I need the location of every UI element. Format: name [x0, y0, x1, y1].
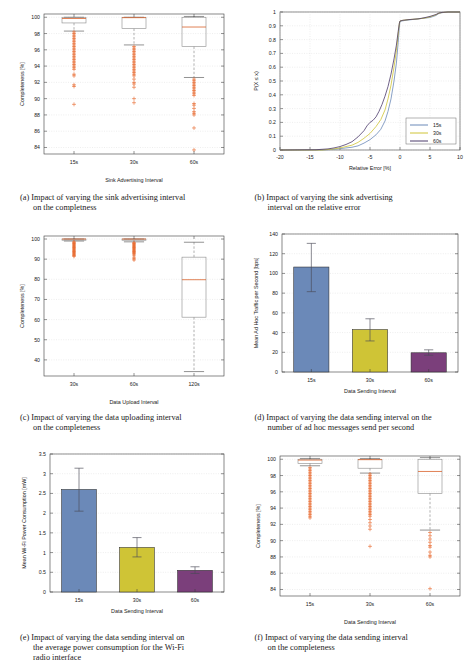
legend-label: 15s — [433, 122, 442, 128]
cdf-plot-b: 00.10.20.30.40.50.60.70.80.91-20-15-10-5… — [234, 0, 469, 192]
subplot-c: 40506070809010030s60s120sData Upload Int… — [0, 220, 234, 440]
plot-f-canvas: 848688909294969810015s30s60sData Sending… — [234, 440, 469, 632]
caption-a: (a) Impact of varying the sink advertisi… — [18, 193, 216, 213]
y-tick-label: 0 — [275, 369, 278, 375]
barchart-e: 00.511.522.533.515s30s60sData Sending In… — [0, 440, 234, 632]
y-tick-label: 92 — [270, 521, 276, 527]
plot-e-canvas: 00.511.522.533.515s30s60sData Sending In… — [0, 440, 234, 632]
x-tick-label: 30s — [130, 159, 139, 165]
caption-a-line1: Impact of varying the sink advertising i… — [31, 193, 185, 202]
y-axis-label: Mean Ad Hoc Traffic per Second [bps] — [253, 257, 259, 348]
y-tick-label: 100 — [267, 456, 276, 462]
y-tick-label: 94 — [270, 505, 276, 511]
y-tick-label: 50 — [34, 337, 40, 343]
y-tick-label: 0.8 — [269, 37, 276, 43]
y-tick-label: 94 — [34, 63, 40, 69]
x-axis-label: Data Sending Interval — [344, 619, 396, 625]
y-tick-label: 40 — [34, 357, 40, 363]
plot-c-canvas: 40506070809010030s60s120sData Upload Int… — [0, 220, 234, 412]
x-tick-label: 60s — [130, 381, 139, 387]
caption-f: (f) Impact of varying the data sending i… — [253, 633, 451, 653]
y-tick-label: 96 — [270, 489, 276, 495]
y-tick-label: 80 — [34, 276, 40, 282]
caption-d-label: (d) — [255, 413, 265, 422]
y-tick-label: 0 — [43, 589, 46, 595]
y-tick-label: 1 — [273, 9, 276, 15]
x-tick-label: 120s — [188, 381, 200, 387]
y-tick-label: 60 — [34, 317, 40, 323]
y-axis-label: P(X ≤ x) — [253, 71, 259, 91]
y-tick-label: 90 — [34, 96, 40, 102]
y-tick-label: 90 — [270, 538, 276, 544]
x-axis-label: Relative Error [%] — [349, 165, 392, 171]
y-tick-label: 100 — [31, 14, 40, 20]
y-axis-label: Completeness [%] — [19, 62, 25, 106]
x-tick-label: 15s — [70, 159, 79, 165]
x-tick-label: 0 — [399, 154, 402, 160]
y-tick-label: 98 — [270, 473, 276, 479]
plot-a-canvas: 848688909294969810015s30s60sSink Adverti… — [0, 0, 234, 192]
plot-b-canvas: 00.10.20.30.40.50.60.70.80.91-20-15-10-5… — [234, 0, 469, 192]
caption-f-label: (f) — [255, 633, 263, 642]
x-tick-label: 60s — [424, 377, 433, 383]
caption-c-line1: Impact of varying the data uploading int… — [31, 413, 181, 422]
caption-b: (b) Impact of varying the sink advertisi… — [253, 193, 451, 213]
caption-f-line1: Impact of varying the data sending inter… — [265, 633, 408, 642]
x-tick-label: 10 — [457, 154, 463, 160]
x-tick-label: -10 — [336, 154, 344, 160]
caption-a-line2: on the completness — [20, 203, 216, 213]
y-tick-label: 40 — [272, 330, 278, 336]
y-tick-label: 0.2 — [269, 119, 276, 125]
x-tick-label: -15 — [306, 154, 314, 160]
y-tick-label: 0.5 — [269, 78, 276, 84]
y-tick-label: 1 — [43, 550, 46, 556]
plot-d-canvas: 02040608010012014015s30s60sData Sending … — [234, 220, 469, 412]
boxplot-c: 40506070809010030s60s120sData Upload Int… — [0, 220, 234, 412]
barchart-d: 02040608010012014015s30s60sData Sending … — [234, 220, 469, 412]
x-tick-label: -5 — [368, 154, 373, 160]
x-tick-label: 30s — [70, 381, 79, 387]
y-tick-label: 1.5 — [39, 530, 46, 536]
y-axis-label: Completeness [%] — [255, 504, 261, 548]
subplot-d: 02040608010012014015s30s60sData Sending … — [234, 220, 469, 440]
subplot-e: 00.511.522.533.515s30s60sData Sending In… — [0, 440, 234, 664]
caption-e: (e) Impact of varying the data sending i… — [18, 633, 216, 663]
x-tick-label: 60s — [191, 597, 200, 603]
caption-d: (d) Impact of varying the data sending i… — [253, 413, 451, 433]
x-tick-label: 30s — [366, 377, 375, 383]
y-tick-label: 0.6 — [269, 64, 276, 70]
y-tick-label: 86 — [270, 570, 276, 576]
x-tick-label: 30s — [366, 601, 375, 607]
y-tick-label: 0.9 — [269, 23, 276, 29]
x-axis-label: Sink Advertising Interval — [105, 177, 163, 183]
x-tick-label: -20 — [276, 154, 284, 160]
y-tick-label: 100 — [31, 236, 40, 242]
subplot-f: 848688909294969810015s30s60sData Sending… — [234, 440, 469, 664]
subplot-grid: 848688909294969810015s30s60sSink Adverti… — [0, 0, 469, 664]
y-tick-label: 80 — [272, 290, 278, 296]
y-tick-label: 84 — [34, 144, 40, 150]
y-tick-label: 140 — [269, 231, 278, 237]
y-tick-label: 2 — [43, 510, 46, 516]
y-tick-label: 120 — [269, 251, 278, 257]
y-tick-label: 0 — [273, 147, 276, 153]
caption-e-label: (e) — [20, 633, 29, 642]
y-tick-label: 86 — [34, 128, 40, 134]
caption-e-line1: Impact of varying the data sending inter… — [31, 633, 184, 642]
boxplot-a: 848688909294969810015s30s60sSink Adverti… — [0, 0, 234, 192]
y-tick-label: 88 — [34, 112, 40, 118]
x-tick-label: 15s — [307, 377, 316, 383]
y-tick-label: 96 — [34, 47, 40, 53]
legend: 15s30s60s — [406, 118, 456, 144]
x-tick-label: 5 — [429, 154, 432, 160]
y-tick-label: 0.3 — [269, 106, 276, 112]
y-tick-label: 84 — [270, 586, 276, 592]
caption-d-line2: number of ad hoc messages send per secon… — [255, 423, 451, 433]
caption-d-line1: Impact of varying the data sending inter… — [266, 413, 431, 422]
y-tick-label: 98 — [34, 31, 40, 37]
caption-b-line1: Impact of varying the sink advertising — [266, 193, 393, 202]
x-tick-label: 60s — [190, 159, 199, 165]
y-tick-label: 20 — [272, 349, 278, 355]
y-tick-label: 0.5 — [39, 569, 46, 575]
y-axis-label: Mean Wi-Fi Power Consumption [mW] — [21, 477, 27, 569]
